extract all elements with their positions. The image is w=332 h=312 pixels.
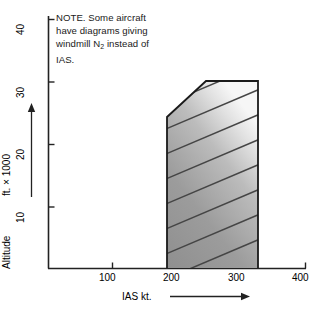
note-line-3-suffix: instead of bbox=[104, 38, 149, 49]
x-tick-label-300: 300 bbox=[228, 272, 245, 283]
x-tick-label-400: 400 bbox=[292, 272, 309, 283]
y-tick-label-10: 10 bbox=[15, 212, 26, 223]
note-line-1: NOTE. Some aircraft bbox=[56, 11, 186, 24]
y-axis-units-label: ft. × 1000 bbox=[1, 154, 12, 196]
y-tick-label-40: 40 bbox=[15, 24, 26, 35]
y-axis-arrow bbox=[28, 103, 35, 197]
relight-envelope-figure: NOTE. Some aircraft have diagrams giving… bbox=[0, 0, 332, 312]
x-tick-label-200: 200 bbox=[163, 272, 180, 283]
note-line-2: have diagrams giving bbox=[56, 24, 186, 37]
note-line-4: IAS. bbox=[56, 53, 186, 66]
note-annotation: NOTE. Some aircraft have diagrams giving… bbox=[56, 11, 186, 66]
x-axis-arrow bbox=[170, 293, 250, 300]
y-tick-label-20: 20 bbox=[15, 149, 26, 160]
x-axis-title-label: IAS kt. bbox=[122, 291, 151, 302]
note-line-3: windmill N2 instead of bbox=[56, 37, 186, 53]
note-line-3-prefix: windmill N bbox=[56, 38, 100, 49]
y-tick-label-30: 30 bbox=[15, 87, 26, 98]
y-axis-name-label: Altitude bbox=[1, 236, 12, 269]
x-tick-label-100: 100 bbox=[99, 272, 116, 283]
